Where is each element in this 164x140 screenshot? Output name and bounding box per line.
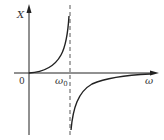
y-axis-label: X xyxy=(16,9,25,20)
capacitive-branch-curve xyxy=(71,74,150,130)
reactance-frequency-diagram: X 0 ω0 ω xyxy=(0,0,164,140)
resonance-label: ω0 xyxy=(55,75,68,88)
origin-label: 0 xyxy=(19,76,25,86)
x-axis-label: ω xyxy=(145,75,153,86)
y-axis-arrow-icon xyxy=(27,4,32,13)
resonance-omega: ω xyxy=(55,75,63,86)
inductive-branch-curve xyxy=(29,16,69,73)
resonance-subscript: 0 xyxy=(63,80,67,88)
